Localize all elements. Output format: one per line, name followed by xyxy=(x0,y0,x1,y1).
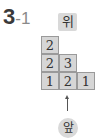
problem-main-number: 3 xyxy=(3,4,15,29)
problem-sub-number: -1 xyxy=(15,9,30,28)
grid-cell: 2 xyxy=(41,54,59,72)
top-view-label: 위 xyxy=(58,13,77,31)
grid-cell: 2 xyxy=(59,72,77,90)
grid-cell: 1 xyxy=(77,72,95,90)
arrow-shaft xyxy=(67,97,68,111)
problem-number: 3-1 xyxy=(3,6,30,28)
grid-cell: 3 xyxy=(59,54,77,72)
front-view-label: 앞 xyxy=(58,118,78,138)
grid-cell: 1 xyxy=(41,72,59,90)
grid-cell: 2 xyxy=(41,36,59,54)
